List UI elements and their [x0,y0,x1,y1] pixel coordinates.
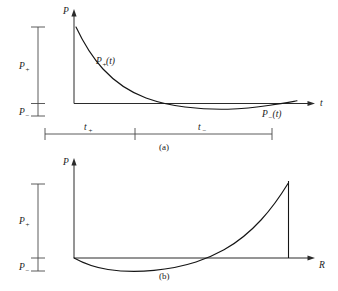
panel-a-positive-branch-arg: (t) [106,56,115,67]
panel-a-y-axis-arrow-icon [71,9,76,17]
panel-a-pressure-curve [76,27,297,109]
figure-svg: P t P + (t) P − (t) P + [0,0,338,291]
panel-b-x-axis-arrow-icon [308,255,316,260]
panel-a-y-axis-label: P [62,6,69,16]
panel-a-p-plus-bracket: P + [18,27,45,104]
panel-a-t-minus-label-sub: − [203,127,207,135]
panel-b-p-plus-label-sub: + [26,221,30,229]
panel-b-p-plus-label-base: P [18,216,25,226]
panel-b-x-axis-label: R [318,260,325,270]
panel-b-p-minus-bracket: P − [18,258,45,275]
panel-a-p-minus-label-base: P [18,107,25,117]
panel-a-positive-branch-base: P [95,56,102,66]
panel-a-negative-branch-arg: (t) [273,109,282,120]
panel-a-x-axis-label: t [320,98,323,108]
figure-container: P t P + (t) P − (t) P + [0,0,338,291]
panel-a-t-minus-label-base: t [198,122,201,132]
panel-a-x-axis-arrow-icon [308,101,316,106]
panel-b-p-plus-bracket: P + [18,184,45,258]
panel-b-p-minus-label-base: P [18,262,25,272]
panel-a-positive-branch-label: P + (t) [95,56,115,69]
panel-a-t-plus-label-base: t [84,122,87,132]
panel-b-y-axis-arrow-icon [71,158,76,166]
panel-b-p-minus-label-sub: − [26,267,30,275]
panel-a-t-plus-label-sub: + [89,127,93,135]
panel-a-p-plus-label-base: P [18,61,25,71]
panel-a-caption: (a) [159,142,169,152]
panel-a: P t P + (t) P − (t) P + [18,6,323,152]
panel-a-p-plus-label-sub: + [26,66,30,74]
panel-a-negative-branch-base: P [261,109,268,119]
panel-b-y-axis-label: P [62,157,69,167]
panel-a-p-minus-bracket: P − [18,104,45,121]
panel-b-caption: (b) [159,271,170,281]
panel-a-negative-branch-label: P − (t) [261,109,281,122]
panel-a-p-minus-label-sub: − [26,112,30,120]
panel-a-time-span-bracket: t + t − [45,122,272,140]
panel-b: P R P + P − (b) [18,157,325,281]
